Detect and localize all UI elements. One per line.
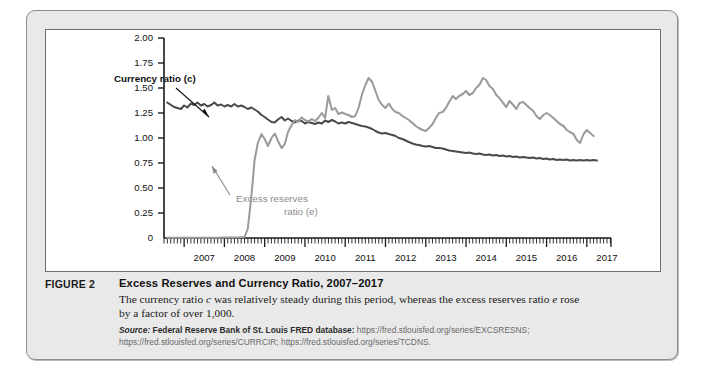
figure-card: 2.001.751.501.251.000.750.500.2502007200… — [26, 10, 678, 360]
figure-source-note: Source: Federal Reserve Bank of St. Loui… — [119, 325, 639, 348]
y-axis-tick-label: 1.25 — [134, 107, 153, 118]
x-axis-tick-label: 2013 — [435, 252, 456, 263]
figure-description: The currency ratio c was relatively stea… — [119, 293, 589, 320]
x-axis-tick-label: 2008 — [234, 252, 255, 263]
figure-title: Excess Reserves and Currency Ratio, 2007… — [119, 277, 661, 290]
x-axis-tick-label: 2012 — [395, 252, 416, 263]
y-axis-tick-label: 0.25 — [134, 207, 153, 218]
y-axis-tick-label: 0 — [148, 232, 153, 243]
desc-part-c: was relatively steady during this period… — [211, 293, 552, 305]
chart-panel: 2.001.751.501.251.000.750.500.2502007200… — [45, 29, 661, 272]
x-axis-tick-label: 2016 — [556, 252, 577, 263]
y-axis-tick-label: 2.00 — [134, 32, 153, 43]
x-axis-tick-label: 2017 — [596, 252, 617, 263]
x-axis-tick-label: 2007 — [194, 252, 215, 263]
x-axis-tick-label: 2010 — [314, 252, 335, 263]
y-axis-tick-label: 0.75 — [134, 157, 153, 168]
x-axis-tick-label: 2011 — [355, 252, 376, 263]
y-axis-tick-label: 1.50 — [134, 82, 153, 93]
x-axis-tick-label: 2015 — [516, 252, 537, 263]
line-chart: 2.001.751.501.251.000.750.500.2502007200… — [46, 30, 660, 271]
x-axis-tick-label: 2014 — [475, 252, 497, 263]
excess-reserves-annotation-label-line2: ratio (e) — [284, 206, 318, 217]
figure-number-label: FIGURE 2 — [45, 277, 119, 290]
excess-reserves-annotation-label-line1: Excess reserves — [236, 193, 308, 204]
figure-caption-block: FIGURE 2 Excess Reserves and Currency Ra… — [45, 277, 661, 349]
x-axis-tick-label: 2009 — [274, 252, 295, 263]
y-axis-tick-label: 1.75 — [134, 57, 153, 68]
desc-part-a: The currency ratio — [119, 293, 206, 305]
source-label: Source: — [119, 325, 150, 335]
y-axis-tick-label: 0.50 — [134, 182, 153, 193]
y-axis-tick-label: 1.00 — [134, 132, 153, 143]
currency-ratio-annotation-label: Currency ratio (c) — [114, 73, 196, 84]
source-database: Federal Reserve Bank of St. Louis FRED d… — [150, 325, 352, 335]
